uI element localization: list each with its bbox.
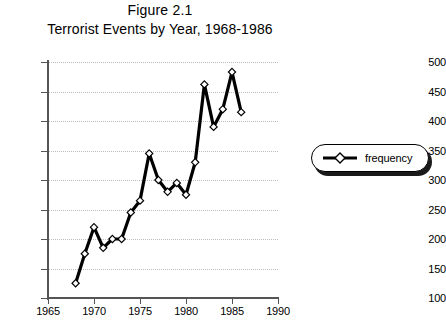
diamond-line-marker-icon [323,152,357,164]
legend-box[interactable]: frequency [311,144,429,172]
series-frequency [48,62,278,298]
data-point-marker [201,81,208,88]
y-axis-tick-label: 250 [408,205,446,216]
y-axis-tick-label: 450 [408,87,446,98]
x-axis-tick-label: 1970 [73,306,115,317]
page-title: Terrorist Events by Year, 1968-1986 [0,20,320,38]
title-block: Figure 2.1 Terrorist Events by Year, 196… [0,2,320,38]
y-axis-tick-label: 300 [408,175,446,186]
y-axis-tick-label: 100 [408,293,446,304]
data-point-marker [238,109,245,116]
x-axis-tick-label: 1965 [27,306,69,317]
data-point-marker [72,280,79,287]
x-axis-tick-label: 1980 [165,306,207,317]
figure-label: Figure 2.1 [0,2,320,19]
data-point-marker [192,159,199,166]
y-axis-tick-label: 500 [408,57,446,68]
y-axis-tick-label: 150 [408,264,446,275]
data-point-marker [228,68,235,75]
x-axis-tick-label: 1975 [119,306,161,317]
legend-label: frequency [365,152,412,164]
y-axis-tick-label: 200 [408,234,446,245]
plot-area [48,62,278,298]
legend: frequency [311,144,429,172]
x-axis-tick-label: 1990 [257,306,299,317]
x-axis-tick-label: 1985 [211,306,253,317]
y-axis-tick-label: 400 [408,116,446,127]
